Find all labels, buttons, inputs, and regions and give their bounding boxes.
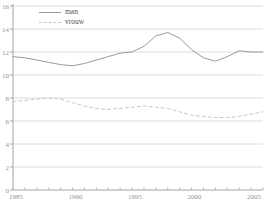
series-line-vrouw bbox=[13, 98, 263, 118]
y-tick-label-10: 10 bbox=[2, 72, 10, 80]
y-tick-label-12: 12 bbox=[2, 49, 10, 57]
x-tick-label-2005: 2005 bbox=[247, 193, 262, 201]
line-chart: 024681012141619851990199520002005 bbox=[0, 0, 266, 201]
man-line-swatch bbox=[39, 12, 61, 13]
series-line-man bbox=[13, 33, 263, 66]
y-tick-label-14: 14 bbox=[2, 26, 10, 34]
legend-item-man: man bbox=[39, 8, 84, 16]
x-tick-label-1985: 1985 bbox=[9, 193, 24, 201]
y-tick-label-2: 2 bbox=[6, 164, 10, 172]
y-tick-label-8: 8 bbox=[6, 95, 10, 103]
legend-label-man: man bbox=[65, 8, 78, 16]
legend-label-vrouw: vrouw bbox=[65, 18, 84, 26]
x-tick-label-1995: 1995 bbox=[128, 193, 143, 201]
vrouw-line-swatch bbox=[39, 22, 61, 23]
x-tick-label-1990: 1990 bbox=[69, 193, 84, 201]
y-tick-label-4: 4 bbox=[6, 141, 10, 149]
x-tick-label-2000: 2000 bbox=[188, 193, 203, 201]
y-tick-label-6: 6 bbox=[6, 118, 10, 126]
chart-figure: 024681012141619851990199520002005 man vr… bbox=[0, 0, 266, 201]
chart-legend: man vrouw bbox=[39, 8, 84, 26]
legend-item-vrouw: vrouw bbox=[39, 18, 84, 26]
y-tick-label-16: 16 bbox=[2, 3, 10, 11]
